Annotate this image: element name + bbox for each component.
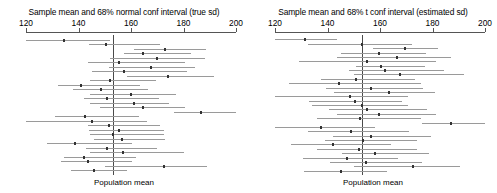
interval-line [86,148,157,149]
x-tick-mark [380,28,381,32]
confidence-interval-row [47,143,132,144]
interval-line [174,112,236,113]
x-tick-label: 120 [19,18,33,28]
sample-mean-marker [412,165,414,168]
sample-mean-marker [109,79,111,82]
panel-normal-conf-interval: Sample mean and 68% normal conf interval… [0,0,248,193]
interval-line [84,98,159,99]
sample-mean-marker [105,43,107,46]
interval-line [61,161,132,162]
x-axis-t: 120140160180200 [275,18,485,36]
interval-line [127,76,214,77]
confidence-interval-row [373,48,437,49]
sample-mean-marker [142,52,144,55]
confidence-interval-row [334,92,435,93]
confidence-interval-row [174,112,236,113]
sample-mean-marker [354,100,356,103]
sample-mean-marker [366,60,368,63]
interval-line [304,171,387,172]
interval-line [303,158,399,159]
interval-line [330,162,422,163]
sample-mean-marker [366,108,368,111]
confidence-interval-row [356,66,424,67]
sample-mean-marker [332,143,334,146]
sample-mean-marker [340,170,342,173]
interval-line [109,67,196,68]
interval-line [354,166,460,167]
confidence-interval-row [321,79,416,80]
sample-mean-marker [133,102,135,105]
x-axis-label-normal: Population mean [0,178,248,187]
confidence-interval-row [275,127,375,128]
confidence-interval-row [89,130,164,131]
sample-mean-marker [121,138,123,141]
sample-mean-marker [346,157,348,160]
interval-line [89,130,164,131]
x-tick-label: 120 [268,18,282,28]
interval-line [317,118,421,119]
sample-mean-marker [142,106,144,109]
confidence-interval-row [58,85,141,86]
interval-line [26,40,110,41]
confidence-interval-row [337,57,451,58]
x-tick-mark [275,28,276,32]
confidence-interval-row [317,118,421,119]
confidence-interval-row [354,166,460,167]
confidence-interval-row [64,157,136,158]
x-tick-label: 160 [373,18,387,28]
interval-line [289,83,420,84]
interval-line [326,88,423,89]
interval-line [321,79,416,80]
panel-title-normal: Sample mean and 68% normal conf interval… [0,7,248,17]
confidence-interval-row [337,114,437,115]
confidence-interval-row [26,40,110,41]
sample-mean-marker [83,156,85,159]
interval-line [308,131,409,132]
interval-line [94,139,165,140]
x-tick-label: 200 [478,18,492,28]
confidence-interval-row [88,62,185,63]
confidence-interval-row [90,80,156,81]
confidence-interval-row [333,136,431,137]
x-tick-label: 160 [124,18,138,28]
interval-line [55,116,139,117]
sample-mean-marker [380,65,382,68]
confidence-interval-row [354,74,464,75]
confidence-interval-row [109,67,196,68]
sample-mean-marker [450,122,452,125]
x-tick-mark [236,28,237,32]
sample-mean-marker [304,38,306,41]
sample-mean-marker [93,169,95,172]
sample-mean-marker [130,93,132,96]
confidence-interval-row [289,83,420,84]
confidence-interval-row [92,71,188,72]
x-tick-mark [433,28,434,32]
x-tick-label: 140 [72,18,86,28]
x-tick-mark [328,28,329,32]
sample-mean-marker [399,73,401,76]
confidence-interval-row [304,171,387,172]
interval-line [90,134,164,135]
x-tick-mark [485,28,486,32]
confidence-interval-row [325,140,417,141]
sample-mean-marker [388,91,390,94]
confidence-interval-row [312,105,408,106]
confidence-interval-row [90,152,183,153]
confidence-interval-row [89,44,160,45]
sample-mean-marker [74,142,76,145]
interval-line [342,153,429,154]
interval-line [92,71,188,72]
sample-mean-marker [100,88,102,91]
sample-mean-marker [164,48,166,51]
confidence-interval-row [110,58,205,59]
confidence-interval-row [61,161,132,162]
interval-line [73,89,148,90]
sample-mean-marker [156,57,158,60]
interval-line [275,127,375,128]
sample-mean-marker [163,165,165,168]
confidence-interval-row [94,139,165,140]
interval-line [337,57,451,58]
sample-mean-marker [378,52,380,55]
confidence-interval-row [342,153,429,154]
x-tick-label: 180 [426,18,440,28]
